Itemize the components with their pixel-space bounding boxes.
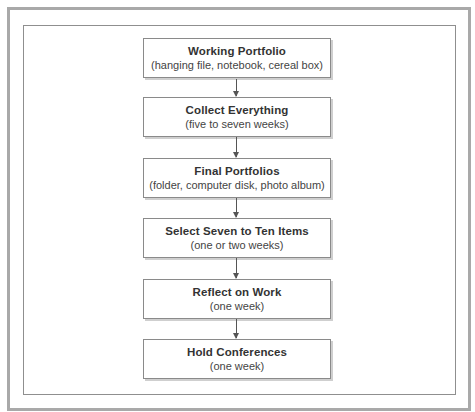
step-subtitle: (five to seven weeks): [144, 117, 330, 131]
step-working-portfolio: Working Portfolio (hanging file, noteboo…: [143, 38, 331, 78]
step-final-portfolios: Final Portfolios (folder, computer disk,…: [143, 158, 331, 198]
step-title: Working Portfolio: [144, 44, 330, 58]
step-subtitle: (hanging file, notebook, cereal box): [144, 58, 330, 72]
arrow-down-icon: [236, 198, 237, 217]
step-subtitle: (folder, computer disk, photo album): [144, 178, 330, 192]
step-title: Reflect on Work: [144, 285, 330, 299]
step-collect-everything: Collect Everything (five to seven weeks): [143, 97, 331, 137]
step-subtitle: (one week): [144, 299, 330, 313]
arrow-down-icon: [236, 258, 237, 278]
step-reflect-on-work: Reflect on Work (one week): [143, 279, 331, 319]
step-hold-conferences: Hold Conferences (one week): [143, 339, 331, 379]
step-title: Collect Everything: [144, 103, 330, 117]
step-title: Hold Conferences: [144, 345, 330, 359]
step-subtitle: (one week): [144, 359, 330, 373]
arrow-down-icon: [236, 319, 237, 338]
arrow-down-icon: [236, 137, 237, 157]
step-title: Final Portfolios: [144, 164, 330, 178]
arrow-down-icon: [236, 79, 237, 96]
step-select-items: Select Seven to Ten Items (one or two we…: [143, 218, 331, 258]
step-title: Select Seven to Ten Items: [144, 224, 330, 238]
step-subtitle: (one or two weeks): [144, 238, 330, 252]
